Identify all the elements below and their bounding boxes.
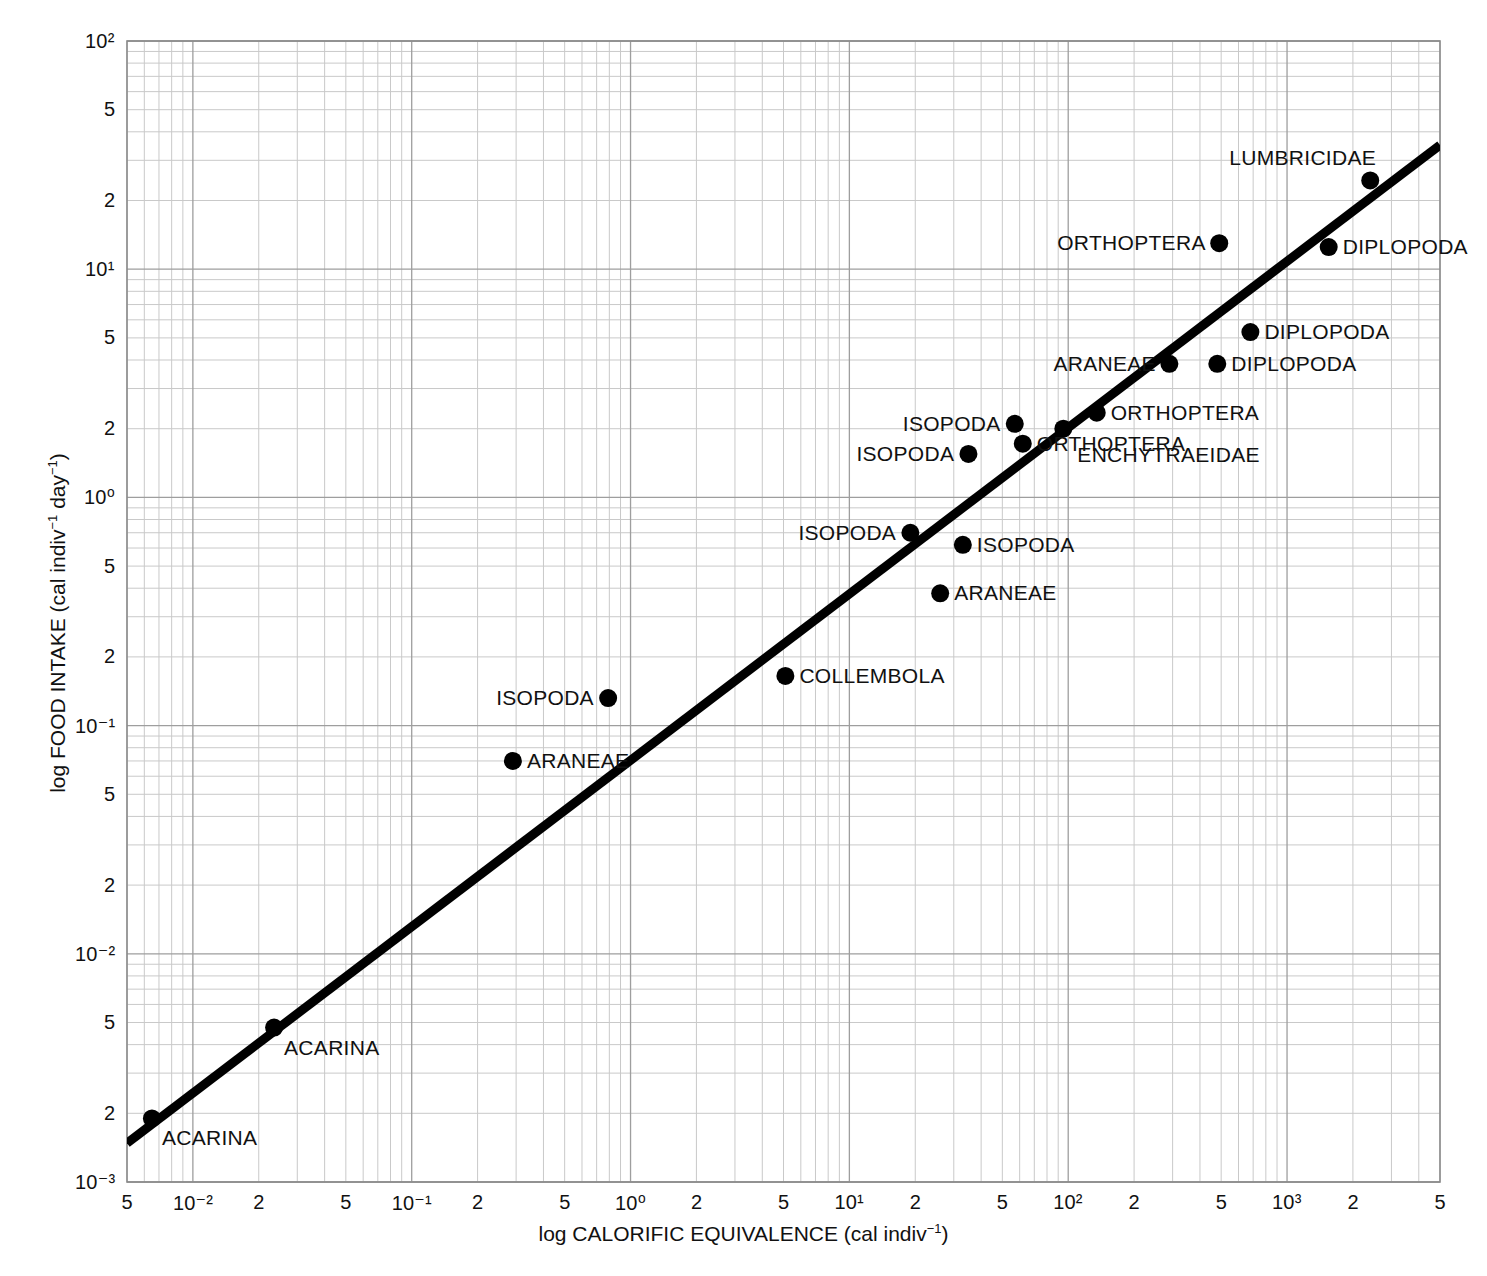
x-tick-label: 5 — [1216, 1191, 1227, 1214]
data-point[interactable] — [143, 1109, 161, 1127]
x-tick-label: 10⁻¹ — [392, 1191, 432, 1215]
y-tick-label: 5 — [104, 783, 115, 806]
x-tick-label: 2 — [1347, 1191, 1358, 1214]
point-label: ACARINA — [284, 1036, 379, 1060]
point-label: ISOPODA — [903, 412, 1001, 436]
data-point[interactable] — [1320, 238, 1338, 256]
x-tick-label: 10⁰ — [615, 1191, 646, 1215]
y-tick-label: 2 — [104, 189, 115, 212]
point-label: ENCHYTRAEIDAE — [1077, 443, 1259, 467]
y-axis-title: log FOOD INTAKE (cal indiv−1 day−1) — [46, 273, 70, 973]
x-axis-title: log CALORIFIC EQUIVALENCE (cal indiv−1) — [0, 1222, 1487, 1246]
point-label: ARANEAE — [1053, 352, 1155, 376]
point-label: ORTHOPTERA — [1111, 401, 1259, 425]
point-label: ACARINA — [162, 1126, 257, 1150]
y-tick-label: 10⁻² — [75, 942, 115, 966]
data-point[interactable] — [1208, 355, 1226, 373]
data-point[interactable] — [1006, 415, 1024, 433]
data-point[interactable] — [1014, 435, 1032, 453]
x-tick-label: 5 — [340, 1191, 351, 1214]
point-label: ARANEAE — [954, 581, 1056, 605]
x-tick-label: 5 — [778, 1191, 789, 1214]
point-label: ISOPODA — [496, 686, 594, 710]
y-tick-label: 10⁻³ — [75, 1170, 115, 1194]
x-tick-label: 2 — [910, 1191, 921, 1214]
x-tick-label: 2 — [691, 1191, 702, 1214]
point-label: ORTHOPTERA — [1057, 231, 1205, 255]
y-tick-label: 2 — [104, 645, 115, 668]
data-point[interactable] — [1088, 404, 1106, 422]
y-tick-label: 2 — [104, 417, 115, 440]
data-point[interactable] — [1241, 323, 1259, 341]
y-tick-label: 5 — [104, 98, 115, 121]
point-label: DIPLOPODA — [1343, 235, 1468, 259]
y-tick-label: 5 — [104, 1011, 115, 1034]
y-axis-title-wrap: log FOOD INTAKE (cal indiv−1 day−1) — [24, 0, 64, 1276]
point-label: LUMBRICIDAE — [1229, 146, 1376, 170]
x-tick-label: 5 — [559, 1191, 570, 1214]
data-point[interactable] — [504, 752, 522, 770]
y-tick-label: 2 — [104, 874, 115, 897]
point-label: ISOPODA — [856, 442, 954, 466]
x-tick-label: 2 — [472, 1191, 483, 1214]
point-label: ARANEAE — [527, 749, 629, 773]
x-tick-label: 5 — [122, 1191, 133, 1214]
data-point[interactable] — [1361, 171, 1379, 189]
point-label: DIPLOPODA — [1231, 352, 1356, 376]
x-tick-label: 2 — [1129, 1191, 1140, 1214]
data-point[interactable] — [776, 667, 794, 685]
x-tick-label: 10² — [1053, 1191, 1083, 1214]
data-point[interactable] — [901, 524, 919, 542]
y-tick-label: 2 — [104, 1102, 115, 1125]
point-label: DIPLOPODA — [1264, 320, 1389, 344]
point-label: COLLEMBOLA — [799, 664, 944, 688]
y-tick-label: 10⁰ — [84, 485, 115, 509]
data-point[interactable] — [931, 584, 949, 602]
data-point[interactable] — [1210, 234, 1228, 252]
data-point[interactable] — [959, 445, 977, 463]
y-tick-label: 10¹ — [85, 258, 115, 281]
y-tick-label: 5 — [104, 326, 115, 349]
plot-canvas — [0, 0, 1487, 1276]
point-label: ISOPODA — [977, 533, 1075, 557]
data-point[interactable] — [954, 536, 972, 554]
x-tick-label: 2 — [253, 1191, 264, 1214]
figure-root: log FOOD INTAKE (cal indiv−1 day−1) log … — [0, 0, 1487, 1276]
data-point[interactable] — [599, 689, 617, 707]
x-tick-label: 10³ — [1272, 1191, 1302, 1214]
y-tick-label: 5 — [104, 555, 115, 578]
x-tick-label: 5 — [1435, 1191, 1446, 1214]
data-point[interactable] — [1160, 355, 1178, 373]
data-point[interactable] — [265, 1019, 283, 1037]
point-label: ISOPODA — [798, 521, 896, 545]
x-tick-label: 10¹ — [834, 1191, 864, 1214]
y-tick-label: 10² — [85, 30, 115, 53]
x-tick-label: 5 — [997, 1191, 1008, 1214]
y-tick-label: 10⁻¹ — [75, 714, 115, 738]
x-tick-label: 10⁻² — [173, 1191, 213, 1215]
